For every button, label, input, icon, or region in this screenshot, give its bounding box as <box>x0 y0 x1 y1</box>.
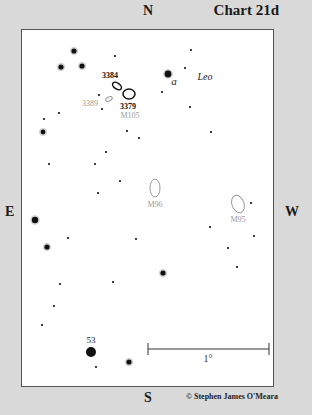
galaxy-label: 3389 <box>82 99 98 108</box>
star <box>86 347 96 357</box>
galaxy-label: M105 <box>120 111 139 120</box>
star <box>189 106 191 108</box>
star <box>125 358 133 366</box>
labels-layer: Leo a53338433793389M105M96M95 <box>82 71 246 345</box>
galaxy-ellipse <box>123 89 135 99</box>
star-label: 53 <box>87 335 97 345</box>
star <box>41 324 43 326</box>
star <box>98 94 100 96</box>
galaxy-ellipse <box>105 96 113 103</box>
galaxy-ellipse <box>229 193 246 214</box>
star-label: a <box>171 75 177 87</box>
star <box>138 137 140 139</box>
galaxy-label: 3384 <box>102 71 118 80</box>
star <box>159 269 167 277</box>
copyright-credit: © Stephen James O'Meara <box>186 392 278 401</box>
star <box>114 55 116 57</box>
star <box>227 247 229 249</box>
star <box>135 238 137 240</box>
star <box>161 91 163 93</box>
star <box>95 366 97 368</box>
star <box>57 63 65 71</box>
star <box>250 202 252 204</box>
star <box>43 243 51 251</box>
stars-layer <box>30 47 255 368</box>
galaxies-layer <box>105 81 247 215</box>
star <box>101 108 103 110</box>
scale-bar: 1° <box>148 343 269 364</box>
star <box>43 118 45 120</box>
star <box>236 266 238 268</box>
star <box>39 128 47 136</box>
galaxy-ellipse <box>150 179 160 197</box>
star <box>70 47 78 55</box>
galaxy-label: M95 <box>230 215 245 224</box>
star <box>30 215 40 225</box>
galaxy-label: 3379 <box>120 102 136 111</box>
star <box>48 163 50 165</box>
star <box>105 151 107 153</box>
star <box>119 180 121 182</box>
star <box>94 163 96 165</box>
constellation-label: Leo <box>197 71 213 82</box>
star-chart-page: Chart 21d N S E W Leo a53338433793389M10… <box>0 0 312 415</box>
star <box>59 283 61 285</box>
star <box>210 131 212 133</box>
star <box>184 67 186 69</box>
star <box>190 49 192 51</box>
star <box>97 192 99 194</box>
star <box>209 226 211 228</box>
star <box>58 112 60 114</box>
star <box>53 305 55 307</box>
scale-bar-label: 1° <box>204 353 213 364</box>
galaxy-label: M96 <box>147 200 162 209</box>
star <box>78 62 86 70</box>
star-field: Leo a53338433793389M105M96M95 1° <box>0 0 312 415</box>
star <box>67 237 69 239</box>
star <box>253 235 255 237</box>
galaxy-ellipse <box>111 81 123 92</box>
star <box>112 281 114 283</box>
star <box>126 130 128 132</box>
